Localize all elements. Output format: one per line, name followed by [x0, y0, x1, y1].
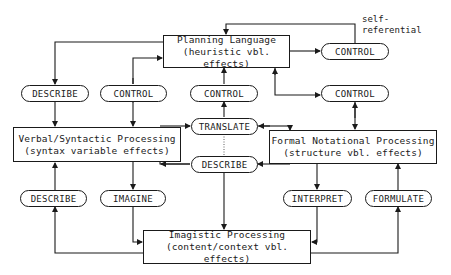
describe-planning-pill: DESCRIBE — [21, 85, 89, 102]
control-translate-pill: CONTROL — [190, 85, 258, 102]
verbal-syntactic-subtitle: (syntax variable effects) — [24, 145, 170, 157]
describe-center-pill: DESCRIBE — [191, 156, 258, 173]
control-formal-pill: CONTROL — [321, 85, 389, 102]
verbal-syntactic-box: Verbal/Syntactic Processing (syntax vari… — [13, 127, 181, 162]
planning-language-subtitle: (heuristic vbl. effects) — [164, 46, 289, 70]
formal-notational-box: Formal Notational Processing (structure … — [269, 130, 437, 164]
formulate-pill: FORMULATE — [365, 190, 432, 207]
formal-notational-title: Formal Notational Processing — [272, 135, 435, 147]
imagistic-processing-box: Imagistic Processing (content/context vb… — [143, 230, 311, 264]
planning-language-box: Planning Language (heuristic vbl. effect… — [163, 35, 290, 68]
self-referential-line1: self- — [362, 14, 422, 25]
self-referential-line2: referential — [362, 25, 422, 36]
formal-notational-subtitle: (structure vbl. effects) — [283, 147, 423, 159]
interpret-pill: INTERPRET — [283, 190, 352, 207]
imagine-pill: IMAGINE — [100, 190, 166, 207]
describe-imagistic-pill: DESCRIBE — [20, 190, 87, 207]
imagistic-processing-subtitle: (content/context vbl. effects) — [144, 241, 310, 265]
verbal-syntactic-title: Verbal/Syntactic Processing — [18, 133, 175, 145]
control-self-pill: CONTROL — [321, 43, 389, 60]
control-verbal-pill: CONTROL — [100, 85, 167, 102]
translate-pill: TRANSLATE — [191, 118, 258, 135]
imagistic-processing-title: Imagistic Processing — [169, 229, 285, 241]
self-referential-note: self- referential — [362, 14, 422, 36]
planning-language-title: Planning Language — [177, 34, 276, 46]
